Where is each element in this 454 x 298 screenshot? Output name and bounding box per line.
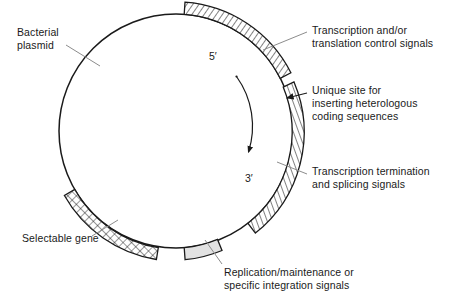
plasmid-diagram-figure: Bacterial plasmid Transcription and/or t… bbox=[0, 0, 454, 298]
control-signals-band bbox=[184, 2, 291, 78]
label-replication-maintenance-signals: Replication/maintenance or specific inte… bbox=[224, 266, 354, 292]
plasmid-backbone-circle bbox=[59, 14, 293, 248]
label-transcription-termination-signals: Transcription termination and splicing s… bbox=[312, 165, 430, 191]
leader-line-transcription-control bbox=[263, 32, 307, 50]
leader-line-bacterial-plasmid bbox=[66, 45, 100, 66]
label-selectable-gene: Selectable gene bbox=[22, 232, 99, 245]
label-bacterial-plasmid: Bacterial plasmid bbox=[17, 26, 59, 52]
segment-transcription-control-signals bbox=[184, 2, 291, 78]
termination-signals-band bbox=[248, 82, 304, 233]
label-unique-site: Unique site for inserting heterologous c… bbox=[312, 84, 418, 123]
transcription-arrow-tail-dot bbox=[235, 75, 237, 77]
segment-transcription-termination-signals bbox=[248, 82, 304, 233]
label-transcription-control-signals: Transcription and/or translation control… bbox=[312, 24, 433, 50]
transcription-direction-arrow bbox=[237, 77, 253, 153]
label-three-prime: 3′ bbox=[245, 172, 253, 184]
label-five-prime: 5′ bbox=[209, 50, 217, 62]
